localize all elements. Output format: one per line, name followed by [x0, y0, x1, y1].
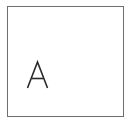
letter-label: A [26, 60, 50, 90]
letter-a-glyph [26, 60, 50, 90]
letter-card[interactable]: A [7, 6, 124, 117]
